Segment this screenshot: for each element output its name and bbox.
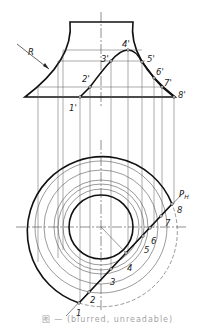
svg-text:4: 4: [127, 263, 132, 273]
figure-caption: 图 — (blurred, unreadable): [0, 313, 215, 324]
top-view: 1 2 3 4 5 6 7 8 PH: [16, 140, 189, 318]
svg-text:6': 6': [156, 67, 164, 77]
svg-text:8': 8': [178, 90, 186, 100]
svg-text:6: 6: [151, 236, 157, 246]
svg-text:1': 1': [69, 103, 77, 113]
radius-leader: R: [17, 44, 49, 69]
svg-text:2: 2: [90, 295, 95, 305]
radius-label: R: [28, 47, 34, 57]
svg-text:7': 7': [164, 78, 172, 88]
section-drawing: R 1' 2' 3' 4' 5' 6' 7' 8': [0, 0, 215, 330]
top-point-labels: 1 2 3 4 5 6 7 8 PH: [76, 189, 189, 318]
svg-text:3': 3': [101, 54, 109, 64]
svg-text:8: 8: [177, 205, 183, 215]
plane-label: PH: [179, 189, 189, 200]
svg-text:5: 5: [144, 245, 149, 255]
radius-line: [101, 227, 126, 253]
svg-text:3: 3: [110, 277, 115, 287]
svg-text:4': 4': [122, 39, 130, 49]
svg-text:5': 5': [147, 54, 155, 64]
svg-text:2': 2': [82, 74, 90, 84]
front-view: R 1' 2' 3' 4' 5' 6' 7' 8': [17, 12, 186, 113]
svg-text:7: 7: [165, 218, 171, 228]
